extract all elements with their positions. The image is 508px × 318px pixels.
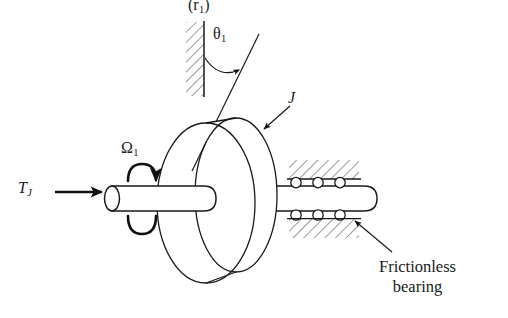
bearing-ball: [335, 177, 345, 187]
applied-torque-label: TJ: [18, 180, 32, 198]
bearing-bottom-hatching: [289, 219, 359, 238]
bearing-callout-line-1: Frictionless: [379, 257, 456, 277]
omega-subscript: 1: [133, 147, 139, 158]
fixed-wall-reference: [186, 21, 204, 97]
theta-glyph: θ: [213, 25, 221, 42]
torque-subscript: J: [27, 187, 32, 198]
bearing-callout-line-2: bearing: [379, 277, 456, 297]
theta-subscript: 1: [221, 33, 227, 44]
wall-hatching: [186, 22, 204, 96]
bearing-top-hatching: [289, 160, 359, 179]
technical-diagram-root: (r1) θ1 J Ω1 TJ Frictionless bearing: [0, 0, 508, 318]
rotation-arc-upper: [128, 164, 156, 181]
angular-displacement-label: θ1: [213, 26, 226, 44]
radius-label-close: ): [204, 0, 209, 13]
theta-angle-arc: [205, 58, 239, 73]
input-shaft-body: [112, 186, 216, 211]
frictionless-bearing-callout: Frictionless bearing: [379, 257, 456, 297]
input-shaft: [105, 186, 217, 211]
torque-glyph: T: [18, 179, 27, 196]
inertia-leader-line: [264, 106, 290, 129]
radius-label-open: (r: [188, 0, 199, 13]
radius-parenthetical-label: (r1): [188, 0, 210, 15]
angular-velocity-label: Ω1: [121, 140, 138, 158]
inertia-glyph: J: [288, 89, 295, 106]
rotation-arc-lower: [128, 216, 156, 234]
input-shaft-end-face: [105, 186, 120, 211]
bearing-block-bottom: [287, 210, 361, 238]
bearing-leader-line: [355, 221, 392, 252]
bearing-ball: [313, 177, 323, 187]
inertia-label: J: [288, 90, 295, 107]
bearing-block-top: [287, 160, 361, 188]
omega-glyph: Ω: [121, 139, 133, 156]
bearing-ball: [291, 177, 301, 187]
